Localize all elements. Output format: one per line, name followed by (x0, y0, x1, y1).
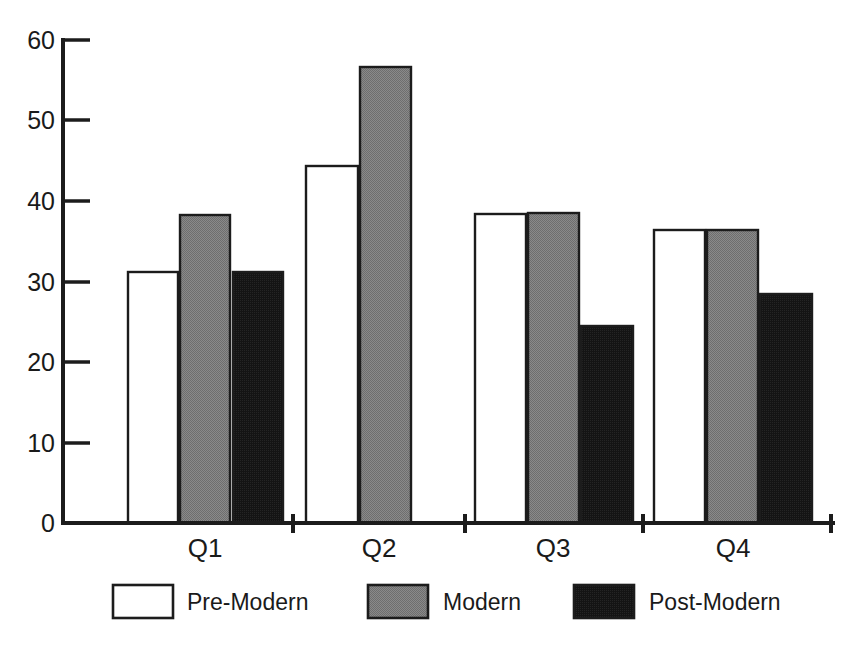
bar-q1-pre-modern[interactable] (128, 272, 178, 523)
y-tick-label-10: 10 (27, 429, 55, 457)
bar-q3-post-modern[interactable] (581, 326, 633, 523)
chart-legend: Pre-Modern Modern Post-Modern (113, 585, 781, 618)
y-tick-label-30: 30 (27, 268, 55, 296)
y-tick-label-0: 0 (41, 509, 55, 537)
y-tick-label-50: 50 (27, 106, 55, 134)
bar-q2-modern[interactable] (360, 67, 411, 523)
bar-q4-pre-modern[interactable] (654, 230, 705, 523)
x-tick-label-q1: Q1 (188, 533, 223, 563)
y-tick-label-20: 20 (27, 348, 55, 376)
y-tick-label-60: 60 (27, 26, 55, 54)
x-tick-label-q2: Q2 (362, 533, 397, 563)
legend-swatch-modern (368, 585, 428, 618)
bar-q4-post-modern[interactable] (760, 294, 812, 523)
x-tick-label-q4: Q4 (716, 533, 751, 563)
legend-label-post-modern: Post-Modern (649, 589, 781, 615)
legend-item-post-modern[interactable]: Post-Modern (574, 585, 781, 618)
legend-item-pre-modern[interactable]: Pre-Modern (113, 585, 308, 618)
y-tick-label-40: 40 (27, 187, 55, 215)
x-tick-label-q3: Q3 (536, 533, 571, 563)
bar-q1-post-modern[interactable] (233, 272, 283, 523)
bar-q3-modern[interactable] (528, 213, 579, 523)
legend-item-modern[interactable]: Modern (368, 585, 521, 618)
legend-label-modern: Modern (443, 589, 521, 615)
bar-q2-pre-modern[interactable] (306, 166, 358, 523)
legend-swatch-post-modern (574, 585, 634, 618)
bar-q1-modern[interactable] (180, 215, 230, 523)
bar-q3-pre-modern[interactable] (475, 214, 526, 523)
chart-canvas: 60 50 40 30 20 10 0 (0, 0, 853, 649)
legend-swatch-pre-modern (113, 585, 173, 618)
bar-q4-modern[interactable] (707, 230, 758, 523)
bar-chart-figure: 60 50 40 30 20 10 0 (0, 0, 853, 649)
legend-label-pre-modern: Pre-Modern (187, 589, 308, 615)
